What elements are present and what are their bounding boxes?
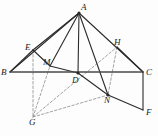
vertex-label-n: N (104, 96, 110, 105)
segment-H-C (117, 47, 143, 72)
dashed-H-N (108, 47, 117, 95)
dashed-G-N (33, 95, 108, 117)
segment-A-M (50, 13, 79, 66)
vertex-label-b: B (1, 68, 7, 77)
vertex-label-g: G (29, 118, 36, 127)
geometry-figure: ABCDEFGHMN (0, 0, 158, 136)
geometry-canvas (0, 0, 158, 136)
segment-N-F (108, 95, 143, 110)
segment-B-E (10, 50, 33, 72)
segment-A-N (79, 13, 108, 95)
solid-lines-group (10, 13, 143, 110)
segment-D-N (78, 73, 108, 95)
vertex-label-m: M (43, 58, 51, 67)
vertex-label-d: D (72, 76, 79, 85)
vertex-label-a: A (81, 3, 87, 12)
vertex-label-f: F (146, 108, 152, 117)
segment-A-D (78, 13, 79, 73)
vertex-label-e: E (25, 43, 31, 52)
vertex-label-h: H (114, 38, 121, 47)
vertex-label-c: C (146, 68, 152, 77)
dashed-G-M (33, 66, 50, 117)
segment-E-A (33, 13, 79, 50)
